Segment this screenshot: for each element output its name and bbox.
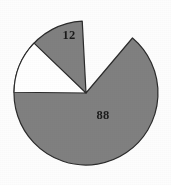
pie-label-minor: 12	[62, 28, 75, 42]
pie-label-major: 88	[96, 108, 109, 122]
pie-chart: 88 12	[0, 0, 171, 185]
pie-chart-svg: 88 12	[0, 0, 171, 185]
